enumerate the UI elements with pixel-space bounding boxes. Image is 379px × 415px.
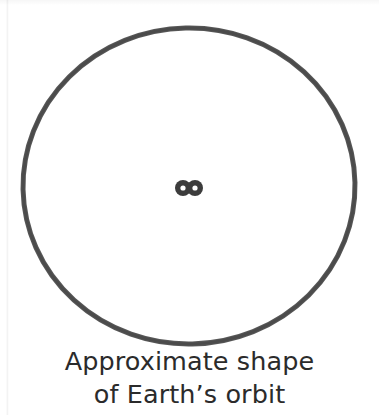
orbit-foci-marks	[175, 180, 203, 196]
focus-left-hole	[180, 185, 185, 190]
orbit-diagram	[0, 0, 379, 352]
orbit-svg	[0, 0, 379, 352]
focus-right-hole	[192, 185, 197, 190]
caption-line-2: of Earth’s orbit	[0, 378, 379, 411]
orbit-figure: Approximate shape of Earth’s orbit	[0, 0, 379, 415]
figure-caption: Approximate shape of Earth’s orbit	[0, 345, 379, 411]
caption-line-1: Approximate shape	[0, 345, 379, 378]
